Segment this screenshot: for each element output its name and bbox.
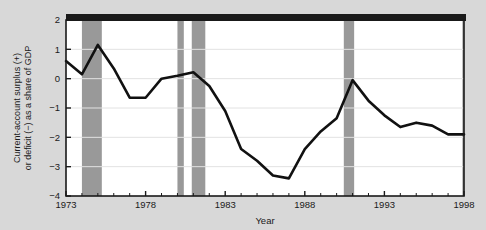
x-tick-label-1983: 1983 [215, 199, 236, 210]
x-tick-label-1988: 1988 [294, 199, 315, 210]
x-axis-title: Year [255, 215, 274, 226]
y-axis-title-line1: Current-account surplus (+) [12, 53, 22, 163]
y-axis-title-line2: or deficit (−) as a share of GDP [23, 46, 33, 170]
y-tick-label-0: 0 [55, 73, 60, 84]
y-tick-label-2: 2 [55, 14, 60, 25]
x-tick-label-1993: 1993 [374, 199, 395, 210]
chart-figure: 197319781983198819931998 210−1−2−3−4 Yea… [0, 0, 486, 230]
x-tick-label-1978: 1978 [135, 199, 156, 210]
y-tick-label-1: 1 [55, 44, 60, 55]
y-tick-label-−3: −3 [49, 161, 60, 172]
y-tick-label-−4: −4 [49, 190, 60, 201]
current-account-line-chart: 197319781983198819931998 210−1−2−3−4 Yea… [0, 0, 486, 230]
y-tick-label-−2: −2 [49, 132, 60, 143]
y-tick-label-−1: −1 [49, 102, 60, 113]
x-tick-label-1998: 1998 [453, 199, 474, 210]
